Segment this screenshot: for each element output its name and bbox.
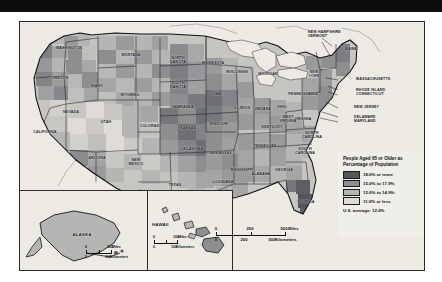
ak-scale-line-miles <box>86 250 112 254</box>
page-top-band <box>0 0 442 12</box>
legend-national-average: U.S. average: 12.6% <box>343 208 419 213</box>
main-scale-bars: 0 250 500 Miles 0 250 500 Kilometers <box>216 226 326 243</box>
hawaii-scale-bars: 0 100 Miles 0 100 Kilometers <box>154 235 198 250</box>
hi-mi-unit: Miles <box>178 235 187 239</box>
legend-swatch <box>343 180 360 187</box>
map-figure-page: WASHINGTONOREGONIDAHOMONTANAWYOMINGNEVAD… <box>0 0 442 282</box>
hi-scale-line-miles <box>154 240 178 244</box>
legend-row: 15.0% to 17.9% <box>343 180 419 187</box>
main-scale-line <box>216 232 286 236</box>
main-mi-0: 0 <box>215 226 217 231</box>
legend-row: 18.0% or more <box>343 171 419 178</box>
legend-class-label: 11.9% or less <box>363 199 391 204</box>
ak-km-unit: Kilometers <box>110 255 128 259</box>
main-km-0: 0 <box>215 237 217 242</box>
legend-swatch <box>343 197 360 204</box>
ak-km-0: 0 <box>85 255 87 259</box>
map-figure-frame: WASHINGTONOREGONIDAHOMONTANAWYOMINGNEVAD… <box>19 21 425 271</box>
main-km-250: 250 <box>241 237 248 242</box>
legend-class-list: 18.0% or more15.0% to 17.9%12.0% to 14.9… <box>343 171 419 205</box>
map-legend: People Aged 65 or Older as Percentage of… <box>338 152 424 238</box>
legend-row: 12.0% to 14.9% <box>343 189 419 196</box>
main-mi-500: 500 <box>281 226 288 231</box>
legend-title: People Aged 65 or Older as Percentage of… <box>343 156 419 168</box>
legend-swatch <box>343 171 360 178</box>
ak-mi-unit: Miles <box>112 245 121 249</box>
legend-row: 11.9% or less <box>343 197 419 204</box>
hi-tick-mi <box>166 240 167 243</box>
main-mi-unit: Miles <box>288 226 298 231</box>
ak-tick-mi <box>99 250 100 253</box>
main-mi-250: 250 <box>247 226 254 231</box>
main-km-unit: Kilometers <box>275 237 297 242</box>
hi-mi-0: 0 <box>153 235 155 239</box>
ak-mi-0: 0 <box>85 245 87 249</box>
hi-km-unit: Kilometers <box>176 245 194 249</box>
legend-class-label: 12.0% to 14.9% <box>363 190 394 195</box>
legend-class-label: 15.0% to 17.9% <box>363 181 394 186</box>
main-tick-mid <box>251 232 252 235</box>
alaska-inset: ALASKA 0 300 Miles 0 300 Kilometers <box>19 190 149 271</box>
alaska-scale-bars: 0 300 Miles 0 300 Kilometers <box>86 245 132 260</box>
hi-km-0: 0 <box>153 245 155 249</box>
legend-class-label: 18.0% or more <box>363 172 393 177</box>
legend-swatch <box>343 189 360 196</box>
